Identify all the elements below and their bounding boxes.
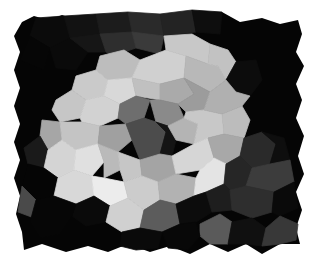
mosaic-cell bbox=[192, 10, 222, 34]
mosaic-cell bbox=[120, 228, 162, 250]
voronoi-mosaic-image bbox=[0, 0, 314, 267]
mosaic-cell bbox=[96, 12, 132, 34]
mosaic-canvas bbox=[0, 0, 314, 267]
mosaic-cell bbox=[160, 10, 196, 36]
